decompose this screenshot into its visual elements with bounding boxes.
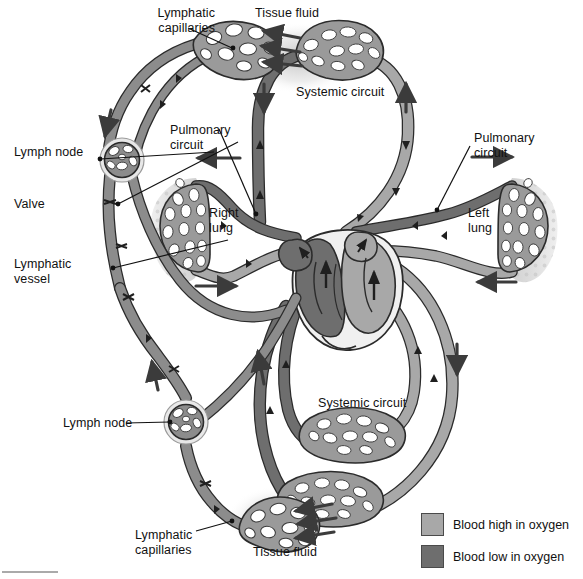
- page-edge-artifact: [2, 571, 58, 573]
- label-tissue-fluid-bottom: Tissue fluid: [253, 545, 317, 560]
- legend-swatch-low-oxygen: [421, 545, 444, 568]
- legend-swatch-high-oxygen: [421, 513, 444, 536]
- label-valve: Valve: [14, 197, 45, 212]
- label-pulmonary-circuit-left: Pulmonary circuit: [170, 123, 231, 152]
- label-lymphatic-vessel: Lymphatic vessel: [14, 257, 71, 286]
- legend-item-low-oxygen: Blood low in oxygen: [421, 545, 564, 568]
- label-lymphatic-capillaries-bottom: Lymphatic capillaries: [135, 528, 192, 557]
- label-systemic-circuit-bottom: Systemic circuit: [318, 396, 406, 411]
- circulatory-lymphatic-diagram: [0, 0, 583, 579]
- legend-item-high-oxygen: Blood high in oxygen: [421, 513, 569, 536]
- label-left-lung: Left lung: [468, 206, 492, 235]
- capillary-bed-systemic-lower-upper: [299, 408, 405, 463]
- label-right-lung: Right lung: [209, 206, 239, 235]
- capillary-bed-systemic-upper: [296, 20, 383, 80]
- legend-label-high-oxygen: Blood high in oxygen: [453, 518, 569, 532]
- label-lymphatic-capillaries-top: Lymphatic capillaries: [127, 6, 215, 35]
- label-systemic-circuit-top: Systemic circuit: [296, 85, 384, 100]
- legend-label-low-oxygen: Blood low in oxygen: [453, 550, 564, 564]
- label-lymph-node-lower: Lymph node: [63, 416, 132, 431]
- label-tissue-fluid-top: Tissue fluid: [255, 6, 319, 21]
- lymph-node-upper: [100, 138, 144, 182]
- label-lymph-node-upper: Lymph node: [14, 145, 83, 160]
- label-pulmonary-circuit-right: Pulmonary circuit: [474, 131, 535, 160]
